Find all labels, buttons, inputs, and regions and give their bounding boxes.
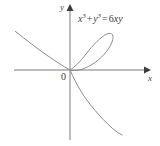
equation-equals-operator: = — [101, 13, 109, 24]
x-axis-label: x — [148, 74, 152, 83]
y-axis-label: y — [60, 3, 64, 12]
curve-upper-left-branch — [16, 32, 70, 70]
y-axis-arrow-icon — [67, 4, 74, 11]
origin-label: 0 — [61, 72, 66, 82]
curve-lower-right-branch — [70, 70, 122, 135]
folium-figure: y x 0 x3+y3=6xy — [0, 0, 160, 146]
equation-annotation: x3+y3=6xy — [78, 14, 123, 24]
equation-rhs-var2: y — [118, 13, 122, 24]
curve-loop — [70, 33, 113, 70]
